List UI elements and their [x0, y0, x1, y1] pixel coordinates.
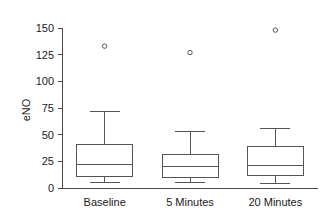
y-tick-label: 100 [36, 75, 54, 87]
y-axis: 0255075100125150 [36, 22, 62, 194]
outlier-point [273, 28, 277, 32]
box-iqr [247, 146, 303, 175]
y-tick-label: 25 [42, 155, 54, 167]
box-iqr [162, 155, 218, 177]
outlier-point [102, 44, 106, 48]
y-tick-label: 50 [42, 129, 54, 141]
box-iqr [77, 144, 133, 176]
y-axis-title: eNO [20, 98, 32, 121]
outlier-point [188, 50, 192, 54]
box-plot-2 [162, 50, 218, 182]
box-plot-1 [77, 44, 133, 183]
y-tick-label: 150 [36, 22, 54, 34]
box-series [77, 28, 304, 184]
boxplot-figure: 0255075100125150 Baseline5 Minutes20 Min… [0, 0, 326, 223]
category-labels: Baseline5 Minutes20 Minutes [84, 196, 303, 208]
x-category-label: 5 Minutes [166, 196, 214, 208]
boxplot-svg: 0255075100125150 Baseline5 Minutes20 Min… [0, 0, 326, 223]
y-tick-label: 125 [36, 49, 54, 61]
box-plot-3 [247, 28, 303, 184]
x-category-label: Baseline [84, 196, 126, 208]
y-tick-label: 0 [48, 182, 54, 194]
y-tick-label: 75 [42, 102, 54, 114]
x-category-label: 20 Minutes [248, 196, 302, 208]
